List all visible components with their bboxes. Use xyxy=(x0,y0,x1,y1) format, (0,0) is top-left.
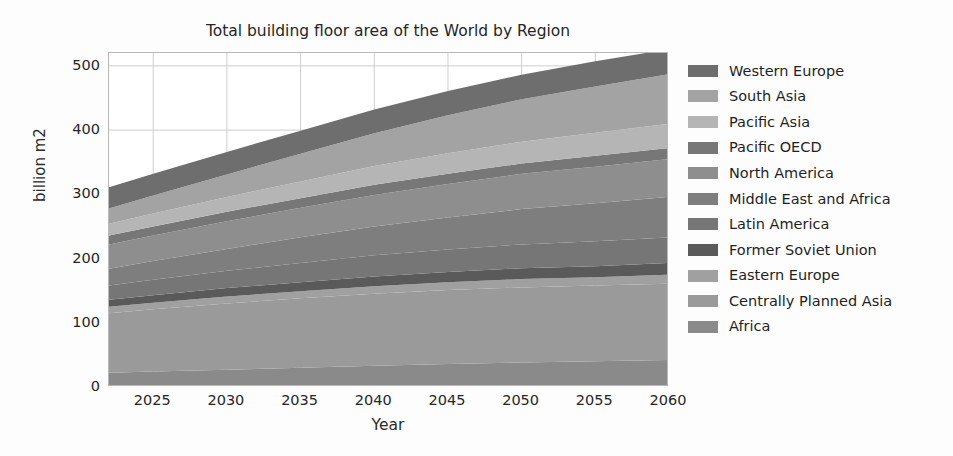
legend-item-label: Africa xyxy=(729,319,770,334)
legend-item-label: Eastern Europe xyxy=(729,268,840,283)
legend-swatch-icon xyxy=(688,270,718,282)
x-axis-label: Year xyxy=(108,416,668,434)
y-axis-label: billion m2 xyxy=(31,95,49,235)
x-tick-label: 2055 xyxy=(576,392,613,408)
chart-figure: Total building floor area of the World b… xyxy=(0,0,953,456)
legend-swatch-icon xyxy=(688,193,718,205)
legend-swatch-icon xyxy=(688,244,718,256)
legend-item[interactable]: South Asia xyxy=(688,84,950,110)
x-tick-label: 2060 xyxy=(650,392,687,408)
legend-item[interactable]: Pacific OECD xyxy=(688,135,950,161)
legend-swatch-icon xyxy=(688,90,718,102)
legend-item-label: North America xyxy=(729,166,834,181)
legend-item[interactable]: Eastern Europe xyxy=(688,263,950,289)
x-tick-label: 2025 xyxy=(134,392,171,408)
x-tick-label: 2045 xyxy=(428,392,465,408)
chart-legend: Western EuropeSouth AsiaPacific AsiaPaci… xyxy=(688,58,950,340)
legend-item[interactable]: Latin America xyxy=(688,212,950,238)
legend-swatch-icon xyxy=(688,167,718,179)
legend-swatch-icon xyxy=(688,65,718,77)
x-tick-label: 2050 xyxy=(502,392,539,408)
legend-item-label: Former Soviet Union xyxy=(729,243,877,258)
legend-item[interactable]: Former Soviet Union xyxy=(688,237,950,263)
legend-item-label: Pacific Asia xyxy=(729,115,810,130)
legend-swatch-icon xyxy=(688,116,718,128)
screenshot-root: Total building floor area of the World b… xyxy=(0,0,953,456)
legend-item-label: Middle East and Africa xyxy=(729,192,891,207)
legend-item-label: Latin America xyxy=(729,217,829,232)
legend-item-label: Western Europe xyxy=(729,64,844,79)
legend-swatch-icon xyxy=(688,321,718,333)
legend-item[interactable]: North America xyxy=(688,160,950,186)
x-tick-label: 2035 xyxy=(281,392,318,408)
x-tick-label: 2030 xyxy=(207,392,244,408)
x-tick-label: 2040 xyxy=(355,392,392,408)
legend-item-label: Centrally Planned Asia xyxy=(729,294,892,309)
legend-item[interactable]: Centrally Planned Asia xyxy=(688,288,950,314)
legend-item-label: Pacific OECD xyxy=(729,140,822,155)
legend-item[interactable]: Pacific Asia xyxy=(688,109,950,135)
legend-swatch-icon xyxy=(688,142,718,154)
legend-item-label: South Asia xyxy=(729,89,806,104)
legend-item[interactable]: Middle East and Africa xyxy=(688,186,950,212)
legend-item[interactable]: Western Europe xyxy=(688,58,950,84)
legend-swatch-icon xyxy=(688,295,718,307)
legend-item[interactable]: Africa xyxy=(688,314,950,340)
legend-swatch-icon xyxy=(688,218,718,230)
